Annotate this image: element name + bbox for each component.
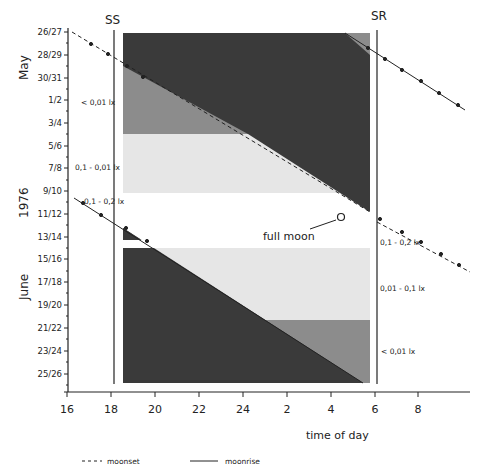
svg-text:9/10: 9/10 bbox=[43, 186, 62, 196]
sunset-label: SS bbox=[105, 13, 120, 27]
svg-text:13/14: 13/14 bbox=[38, 232, 63, 242]
lux-left-2: 0,1 - 0,01 lx bbox=[75, 163, 121, 172]
svg-text:22: 22 bbox=[192, 403, 206, 416]
svg-text:21/22: 21/22 bbox=[38, 323, 63, 333]
svg-text:1/2: 1/2 bbox=[48, 95, 62, 105]
lux-right-3: < 0,01 lx bbox=[381, 347, 416, 356]
svg-text:24: 24 bbox=[236, 403, 250, 416]
svg-text:15/16: 15/16 bbox=[38, 254, 63, 264]
svg-text:19/20: 19/20 bbox=[38, 300, 63, 310]
legend: moonset moonrise bbox=[82, 457, 260, 466]
legend-moonset-label: moonset bbox=[107, 457, 140, 466]
svg-text:2: 2 bbox=[284, 403, 291, 416]
svg-text:8: 8 bbox=[415, 403, 422, 416]
svg-text:4: 4 bbox=[328, 403, 335, 416]
lux-left-1: < 0,01 lx bbox=[81, 98, 116, 107]
region-gap bbox=[123, 240, 370, 248]
x-axis-title: time of day bbox=[306, 429, 369, 442]
legend-moonrise-label: moonrise bbox=[225, 457, 260, 466]
lux-right-1: 0,1 - 0,2 lx bbox=[380, 238, 421, 247]
svg-text:17/18: 17/18 bbox=[38, 277, 63, 287]
svg-text:18: 18 bbox=[104, 403, 118, 416]
svg-text:16: 16 bbox=[60, 403, 74, 416]
y-tick-labels: 26/27 28/29 30/31 1/2 3/4 5/6 7/8 9/10 1… bbox=[38, 27, 63, 379]
svg-text:26/27: 26/27 bbox=[38, 27, 63, 37]
month-label-june: June bbox=[17, 274, 31, 301]
month-label-may: May bbox=[17, 55, 31, 80]
svg-text:25/26: 25/26 bbox=[38, 369, 63, 379]
moon-illuminance-chart: SS SR full moon < 0,01 lx 0,1 - 0,01 lx … bbox=[0, 0, 478, 473]
svg-text:30/31: 30/31 bbox=[38, 73, 63, 83]
svg-text:23/24: 23/24 bbox=[38, 346, 63, 356]
lux-right-2: 0,01 - 0,1 lx bbox=[380, 284, 426, 293]
svg-text:6: 6 bbox=[372, 403, 379, 416]
svg-text:11/12: 11/12 bbox=[38, 209, 63, 219]
svg-text:3/4: 3/4 bbox=[48, 118, 62, 128]
svg-text:5/6: 5/6 bbox=[48, 141, 62, 151]
sunrise-label: SR bbox=[371, 9, 387, 23]
lux-left-3: 0,1 - 0,2 lx bbox=[84, 197, 125, 206]
svg-text:28/29: 28/29 bbox=[38, 50, 63, 60]
year-label: 1976 bbox=[17, 187, 31, 218]
svg-text:7/8: 7/8 bbox=[48, 163, 62, 173]
x-ticks bbox=[67, 392, 418, 397]
x-tick-labels: 16 18 20 22 24 2 4 6 8 bbox=[60, 403, 422, 416]
full-moon-label: full moon bbox=[263, 230, 315, 243]
illuminance-regions bbox=[123, 33, 370, 383]
svg-text:20: 20 bbox=[148, 403, 162, 416]
